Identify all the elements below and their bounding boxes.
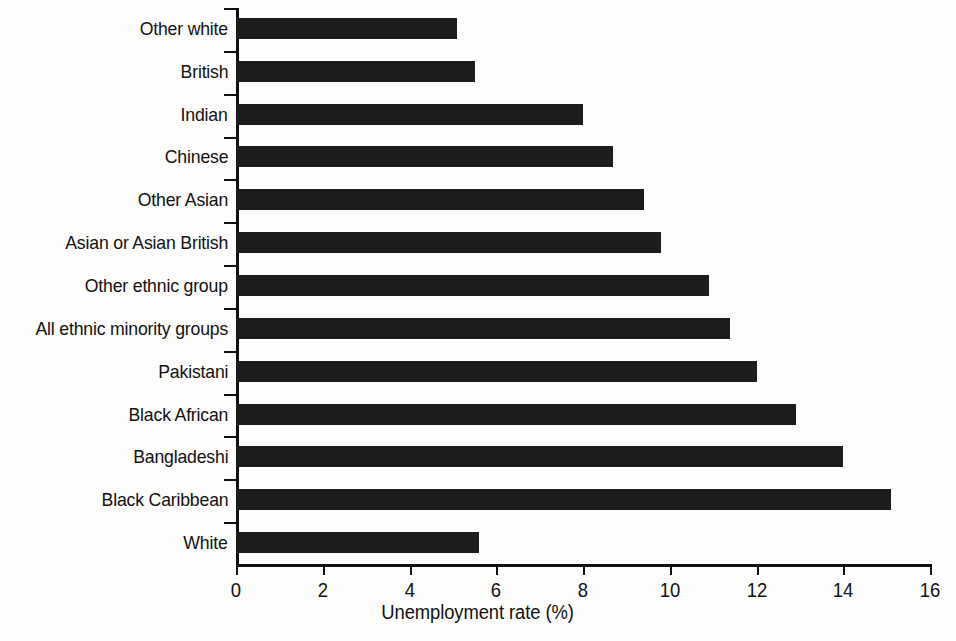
x-axis-tick	[583, 564, 585, 575]
y-axis-tick	[224, 436, 237, 438]
bar	[236, 232, 661, 253]
bar	[236, 18, 457, 39]
bar	[236, 189, 644, 210]
category-label: Pakistani	[158, 361, 228, 382]
category-label: Indian	[181, 104, 228, 125]
bar	[236, 404, 796, 425]
category-label: Bangladeshi	[133, 446, 228, 467]
bar	[236, 146, 613, 167]
x-axis-tick	[670, 564, 672, 575]
category-label: Other Asian	[138, 189, 228, 210]
y-axis-tick	[224, 522, 237, 524]
x-axis-tick-label: 12	[730, 578, 783, 602]
y-axis-tick	[224, 394, 237, 396]
category-label: Asian or Asian British	[65, 232, 228, 253]
y-axis-tick	[224, 222, 237, 224]
y-axis-tick	[224, 351, 237, 353]
x-axis-tick-label: 2	[296, 578, 349, 602]
bar	[236, 446, 843, 467]
x-axis-tick-label: 6	[470, 578, 523, 602]
y-axis-tick	[224, 94, 237, 96]
x-axis-tick	[236, 564, 238, 575]
y-axis-tick	[224, 179, 237, 181]
category-label: British	[180, 61, 228, 82]
category-label: Black African	[128, 404, 228, 425]
x-axis-tick-label: 16	[904, 578, 956, 602]
x-axis-tick	[843, 564, 845, 575]
bar-chart: Other whiteBritishIndianChineseOther Asi…	[0, 0, 956, 641]
x-axis-tick	[930, 564, 932, 575]
category-label: Other ethnic group	[85, 275, 228, 296]
y-axis-tick	[224, 479, 237, 481]
category-label: All ethnic minority groups	[35, 318, 228, 339]
x-axis-title-text: Unemployment rate (%)	[382, 600, 574, 624]
bar	[236, 61, 475, 82]
category-label: Other white	[140, 18, 228, 39]
y-axis-tick	[224, 265, 237, 267]
bar	[236, 104, 583, 125]
bar	[236, 489, 891, 510]
y-axis-tick	[224, 8, 237, 10]
x-axis-tick	[757, 564, 759, 575]
y-axis-tick	[224, 137, 237, 139]
bar	[236, 275, 709, 296]
x-axis-tick	[410, 564, 412, 575]
y-axis-tick	[224, 51, 237, 53]
x-axis-tick	[323, 564, 325, 575]
x-axis-title: Unemployment rate (%)	[0, 600, 956, 624]
category-label: Black Caribbean	[101, 489, 228, 510]
x-axis-tick-label: 14	[817, 578, 870, 602]
x-axis-tick-label: 8	[557, 578, 610, 602]
bar	[236, 532, 479, 553]
x-axis-tick-label: 10	[643, 578, 696, 602]
category-label: White	[184, 532, 228, 553]
x-axis-tick-label: 0	[210, 578, 263, 602]
x-axis-tick	[496, 564, 498, 575]
category-label: Chinese	[164, 146, 228, 167]
y-axis-tick	[224, 308, 237, 310]
bar	[236, 361, 757, 382]
bar	[236, 318, 730, 339]
x-axis-tick-label: 4	[383, 578, 436, 602]
